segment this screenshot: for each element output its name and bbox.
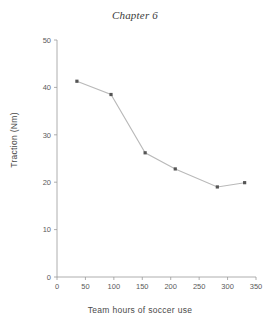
chart-figure: Chapter 6 01020304050 050100150200250300…: [0, 0, 270, 329]
y-tick-label: 40: [43, 83, 51, 92]
data-point-marker: [144, 151, 147, 154]
data-markers: [75, 80, 246, 189]
x-tick-label: 0: [55, 282, 59, 291]
y-axis-label: Traction (Nm): [9, 95, 19, 185]
data-point-marker: [174, 167, 177, 170]
x-tick-label: 250: [193, 282, 206, 291]
y-tick-label: 10: [43, 225, 51, 234]
data-point-marker: [216, 185, 219, 188]
x-tick-label: 200: [164, 282, 177, 291]
data-line: [77, 81, 245, 187]
x-tick-label: 150: [136, 282, 149, 291]
x-tick-label: 300: [221, 282, 234, 291]
x-tick-label: 350: [250, 282, 263, 291]
line-chart-plot: 01020304050 050100150200250300350: [0, 0, 270, 329]
data-point-marker: [75, 80, 78, 83]
y-tick-label: 20: [43, 178, 51, 187]
y-tick-label: 30: [43, 131, 51, 140]
x-axis-label: Team hours of soccer use: [20, 305, 260, 315]
y-tick-label: 50: [43, 36, 51, 45]
data-point-marker: [109, 93, 112, 96]
data-point-marker: [243, 181, 246, 184]
y-axis-ticks: 01020304050: [43, 36, 57, 282]
x-tick-label: 50: [81, 282, 89, 291]
y-tick-label: 0: [47, 273, 51, 282]
x-tick-label: 100: [108, 282, 121, 291]
x-axis-ticks: 050100150200250300350: [55, 277, 262, 291]
